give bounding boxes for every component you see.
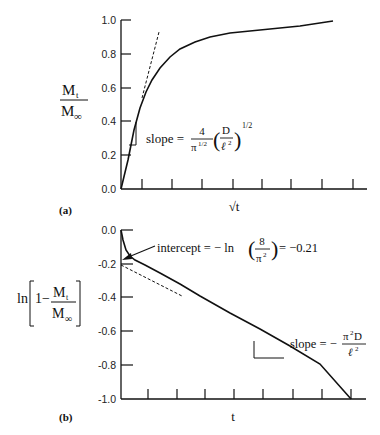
svg-text:ℓ: ℓ	[348, 346, 353, 358]
svg-text:slope = −: slope = −	[290, 337, 337, 351]
b-ytick-label: -0.4	[98, 291, 116, 303]
svg-text:M: M	[62, 82, 75, 98]
svg-text:π: π	[256, 252, 262, 264]
svg-text:2: 2	[228, 139, 232, 147]
figure: 1.0 0.8 0.6 0.4 0.2 0.0 slope = 4 π 1/2 …	[0, 0, 380, 435]
svg-text:): )	[234, 127, 241, 152]
svg-text:t: t	[66, 293, 69, 302]
b-intercept-annotation: intercept = − ln ( 8 π 2 ) = −0.21	[157, 235, 318, 264]
a-ytick-label: 0.6	[101, 82, 116, 94]
b-ytick-label: -0.8	[98, 359, 116, 371]
a-x-ticks	[142, 179, 353, 189]
a-ytick-label: 0.8	[101, 48, 116, 60]
svg-text:π: π	[343, 330, 349, 342]
svg-text:1/2: 1/2	[198, 140, 207, 148]
panel-a: 1.0 0.8 0.6 0.4 0.2 0.0 slope = 4 π 1/2 …	[59, 14, 367, 217]
svg-text:= −0.21: = −0.21	[279, 241, 318, 255]
svg-text:): )	[271, 236, 278, 261]
svg-text:π: π	[191, 141, 197, 153]
a-y-ticks	[121, 20, 131, 155]
svg-text:ℓ: ℓ	[221, 140, 226, 152]
b-x-axis-label: t	[231, 409, 235, 424]
svg-text:M: M	[52, 306, 65, 321]
a-ytick-label: 0.0	[101, 183, 116, 195]
svg-text:slope =: slope =	[146, 131, 184, 146]
svg-text:2: 2	[355, 345, 359, 353]
a-x-axis-label: √t	[229, 199, 240, 214]
svg-text:2: 2	[263, 251, 267, 259]
svg-text:M: M	[61, 103, 74, 119]
svg-text:∞: ∞	[65, 313, 72, 324]
svg-text:M: M	[53, 285, 66, 300]
svg-text:4: 4	[199, 125, 205, 137]
svg-text:t: t	[76, 90, 79, 100]
a-ytick-label: 1.0	[101, 14, 116, 26]
b-ytick-label: -0.6	[98, 325, 116, 337]
a-ytick-label: 0.2	[101, 149, 116, 161]
a-tangent-dashed-line	[142, 32, 159, 98]
svg-text:1−: 1−	[35, 291, 50, 306]
panel-b: 0.0 -0.2 -0.4 -0.6 -0.8 -1.0 intercept =…	[17, 224, 366, 424]
svg-text:(: (	[213, 127, 220, 152]
panel-label-a: (a)	[59, 204, 72, 217]
svg-text:8: 8	[259, 235, 265, 247]
b-x-ticks	[148, 389, 351, 399]
b-intercept-arrow	[122, 246, 155, 260]
svg-text:∞: ∞	[74, 110, 82, 122]
a-ytick-label: 0.4	[101, 115, 116, 127]
svg-text:D: D	[222, 124, 230, 136]
svg-text:intercept = − ln: intercept = − ln	[157, 241, 235, 255]
b-log-curve	[121, 230, 351, 399]
a-y-axis-label: M t M ∞	[60, 82, 88, 122]
svg-text:D: D	[354, 330, 362, 342]
a-slope-annotation: slope = 4 π 1/2 ( D ℓ 2 ) 1/2	[146, 121, 252, 153]
svg-text:ln: ln	[17, 291, 28, 306]
b-y-axis-label: ln 1− M t M ∞	[17, 281, 80, 326]
b-slope-triangle	[254, 341, 284, 358]
panel-label-b: (b)	[59, 411, 73, 424]
b-ytick-label: 0.0	[101, 224, 116, 236]
svg-text:1/2: 1/2	[242, 121, 252, 130]
a-uptake-curve	[121, 21, 333, 189]
b-ytick-label: -1.0	[98, 393, 116, 405]
svg-text:(: (	[248, 236, 255, 261]
b-ytick-label: -0.2	[98, 258, 116, 270]
